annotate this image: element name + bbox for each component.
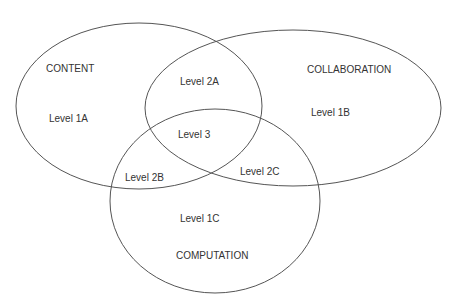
collaboration-ellipse [145,30,441,186]
level-1a-label: Level 1A [49,113,88,124]
content-ellipse [16,23,262,189]
level-1c-label: Level 1C [180,213,219,224]
level-2b-label: Level 2B [125,172,164,183]
level-3-label: Level 3 [178,129,211,140]
computation-ellipse [110,109,320,293]
venn-diagram: CONTENT Level 1A COLLABORATION Level 1B … [0,0,458,307]
level-2a-label: Level 2A [180,76,219,87]
level-2c-label: Level 2C [240,166,279,177]
content-set-label: CONTENT [46,63,94,74]
level-1b-label: Level 1B [311,107,350,118]
collaboration-set-label: COLLABORATION [307,64,391,75]
computation-set-label: COMPUTATION [176,250,248,261]
